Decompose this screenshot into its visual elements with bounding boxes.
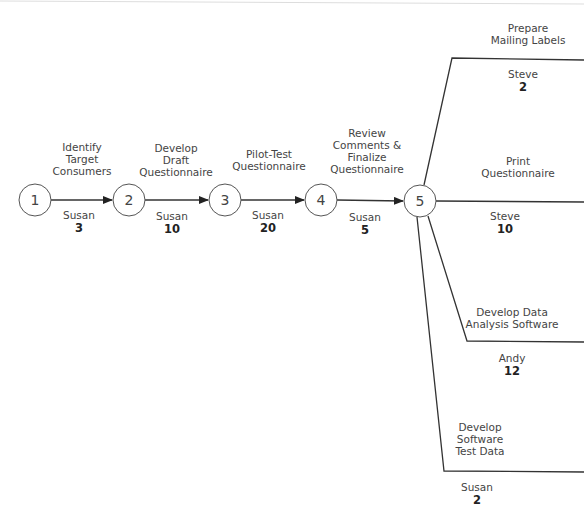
activity-meta-review-comments-finalize: Susan 5 xyxy=(349,211,381,236)
activity-name-line: Questionnaire xyxy=(481,167,555,179)
activity-name-line: Draft xyxy=(139,154,213,166)
activity-name-line: Review xyxy=(330,127,404,139)
node-3-label: 3 xyxy=(221,192,230,208)
activity-duration: 20 xyxy=(252,222,284,234)
activity-name-line: Pilot-Test xyxy=(232,148,306,160)
activity-name-line: Target xyxy=(52,153,111,165)
activity-label-develop-software-test-data: Develop Software Test Data xyxy=(455,421,504,457)
activity-name-line: Consumers xyxy=(52,165,111,177)
activity-duration: 12 xyxy=(499,365,526,377)
node-1-label: 1 xyxy=(31,192,40,208)
arrow-4-5 xyxy=(337,200,403,201)
activity-name-line: Print xyxy=(481,155,555,167)
activity-name-line: Test Data xyxy=(455,445,504,457)
activity-meta-develop-draft-questionnaire: Susan 10 xyxy=(156,210,188,235)
activity-name-line: Finalize xyxy=(330,151,404,163)
activity-duration: 2 xyxy=(508,81,538,93)
node-4: 4 xyxy=(305,184,337,216)
activity-label-print-questionnaire: Print Questionnaire xyxy=(481,155,555,179)
activity-label-prepare-mailing-labels: Prepare Mailing Labels xyxy=(491,22,566,46)
activity-meta-develop-data-analysis-software: Andy 12 xyxy=(499,352,526,377)
activity-owner: Steve xyxy=(508,68,538,80)
activity-duration: 10 xyxy=(156,223,188,235)
activity-label-develop-draft-questionnaire: Develop Draft Questionnaire xyxy=(139,142,213,178)
node-3: 3 xyxy=(209,184,241,216)
node-1: 1 xyxy=(19,184,51,216)
activity-name-line: Develop Data xyxy=(466,306,559,318)
activity-duration: 2 xyxy=(461,494,493,506)
node-2-label: 2 xyxy=(125,192,134,208)
activity-label-review-comments-finalize: Review Comments & Finalize Questionnaire xyxy=(330,127,404,175)
activity-label-pilot-test-questionnaire: Pilot-Test Questionnaire xyxy=(232,148,306,172)
activity-name-line: Analysis Software xyxy=(466,318,559,330)
activity-owner: Susan xyxy=(349,211,381,223)
activity-meta-identify-target-consumers: Susan 3 xyxy=(63,209,95,234)
activity-name-line: Software xyxy=(455,433,504,445)
activity-name-line: Comments & xyxy=(330,139,404,151)
activity-owner: Susan xyxy=(252,209,284,221)
activity-name-line: Questionnaire xyxy=(330,163,404,175)
activity-name-line: Questionnaire xyxy=(232,160,306,172)
activity-name-line: Develop xyxy=(139,142,213,154)
activity-label-identify-target-consumers: Identify Target Consumers xyxy=(52,141,111,177)
activity-meta-print-questionnaire: Steve 10 xyxy=(490,210,520,235)
activity-owner: Steve xyxy=(490,210,520,222)
activity-meta-develop-software-test-data: Susan 2 xyxy=(461,481,493,506)
activity-meta-prepare-mailing-labels: Steve 2 xyxy=(508,68,538,93)
activity-name-line: Questionnaire xyxy=(139,166,213,178)
activity-name-line: Prepare xyxy=(491,22,566,34)
top-border-line xyxy=(0,1,584,4)
node-4-label: 4 xyxy=(317,192,326,208)
activity-duration: 3 xyxy=(63,222,95,234)
activity-owner: Susan xyxy=(156,210,188,222)
activity-meta-pilot-test-questionnaire: Susan 20 xyxy=(252,209,284,234)
activity-name-line: Develop xyxy=(455,421,504,433)
activity-name-line: Mailing Labels xyxy=(491,34,566,46)
activity-name-line: Identify xyxy=(52,141,111,153)
branch-print-questionnaire xyxy=(436,201,584,202)
node-2: 2 xyxy=(113,184,145,216)
activity-owner: Andy xyxy=(499,352,526,364)
activity-duration: 10 xyxy=(490,223,520,235)
node-5: 5 xyxy=(404,185,436,217)
activity-duration: 5 xyxy=(349,224,381,236)
activity-owner: Susan xyxy=(461,481,493,493)
activity-owner: Susan xyxy=(63,209,95,221)
node-5-label: 5 xyxy=(416,193,425,209)
activity-label-develop-data-analysis-software: Develop Data Analysis Software xyxy=(466,306,559,330)
